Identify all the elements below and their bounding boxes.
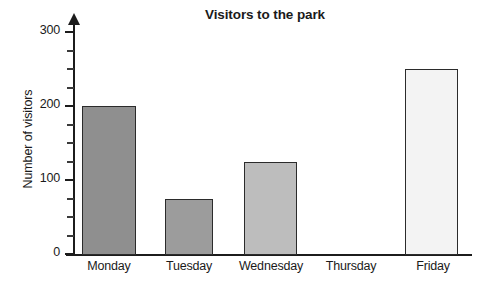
y-axis-arrow-icon: [68, 13, 80, 25]
y-axis-label: Number of visitors: [21, 59, 35, 219]
y-axis-minor-tick: [67, 68, 74, 70]
bar-wednesday: [244, 162, 297, 256]
bar-chart: Visitors to the park Number of visitors …: [0, 0, 486, 290]
y-axis-major-tick: [65, 105, 74, 107]
y-axis-minor-tick: [67, 216, 74, 218]
x-axis-label-thursday: Thursday: [310, 259, 392, 273]
y-axis-major-tick: [65, 253, 74, 255]
y-axis-tick-label: 300: [20, 23, 60, 37]
y-axis-minor-tick: [67, 198, 74, 200]
x-axis-label-tuesday: Tuesday: [149, 259, 229, 273]
y-axis-line: [73, 22, 75, 255]
bar-friday: [405, 69, 458, 255]
y-axis-minor-tick: [67, 161, 74, 163]
y-axis-tick-label: 100: [20, 171, 60, 185]
bar-tuesday: [165, 199, 213, 256]
y-axis-minor-tick: [67, 142, 74, 144]
x-axis-label-friday: Friday: [394, 259, 472, 273]
bar-monday: [82, 106, 136, 255]
y-axis-minor-tick: [67, 50, 74, 52]
y-axis-tick-label: 200: [20, 97, 60, 111]
y-axis-minor-tick: [67, 87, 74, 89]
x-axis-label-monday: Monday: [69, 259, 149, 273]
y-axis-major-tick: [65, 179, 74, 181]
y-axis-major-tick: [65, 31, 74, 33]
y-axis-minor-tick: [67, 124, 74, 126]
y-axis-tick-label: 0: [20, 245, 60, 259]
x-axis-label-wednesday: Wednesday: [225, 259, 317, 273]
y-axis-minor-tick: [67, 235, 74, 237]
chart-title: Visitors to the park: [120, 7, 410, 22]
